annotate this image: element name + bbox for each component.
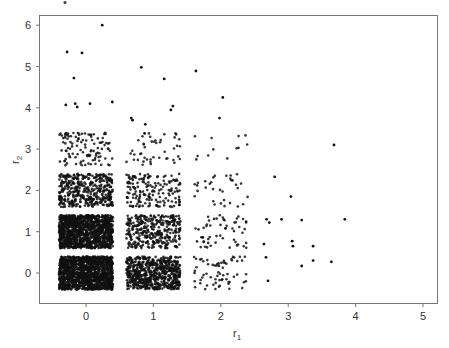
data-point <box>174 229 177 232</box>
data-point <box>153 186 156 189</box>
data-point <box>69 275 72 278</box>
data-point <box>140 266 143 269</box>
data-point <box>217 271 220 274</box>
data-point <box>65 276 68 279</box>
data-point <box>64 237 67 240</box>
x-tick-label: 5 <box>420 310 426 322</box>
data-point <box>109 260 112 263</box>
data-point <box>143 216 146 219</box>
data-point <box>83 181 86 184</box>
data-point <box>92 150 95 153</box>
data-point <box>223 219 226 222</box>
data-point <box>105 227 108 230</box>
data-point <box>88 232 91 235</box>
data-point <box>126 273 129 276</box>
data-point <box>173 222 176 225</box>
data-point <box>71 222 74 225</box>
data-point <box>168 278 171 281</box>
data-point <box>100 219 103 222</box>
data-point <box>106 189 109 192</box>
data-point <box>126 224 129 227</box>
data-point <box>104 186 107 189</box>
data-point <box>135 217 138 220</box>
data-point <box>95 154 98 157</box>
data-point <box>110 215 113 218</box>
data-point <box>146 198 149 201</box>
data-point <box>94 162 97 165</box>
data-point <box>66 183 69 186</box>
data-point <box>103 222 106 225</box>
data-point <box>100 164 103 167</box>
data-point <box>89 102 92 105</box>
data-point <box>154 182 157 185</box>
data-point <box>177 287 180 290</box>
data-point <box>231 227 234 230</box>
data-point <box>106 223 109 226</box>
data-point <box>93 238 96 241</box>
data-point <box>136 266 139 269</box>
data-point <box>164 245 167 248</box>
data-point <box>61 187 64 190</box>
data-point <box>102 225 105 228</box>
data-point <box>142 190 145 193</box>
data-point <box>224 227 227 230</box>
data-point <box>333 144 336 147</box>
data-point <box>172 105 175 108</box>
data-point <box>209 224 212 227</box>
data-point <box>107 276 110 279</box>
data-point <box>171 192 174 195</box>
data-point <box>137 287 140 290</box>
data-point <box>81 52 84 55</box>
data-point <box>110 270 113 273</box>
data-point <box>205 273 208 276</box>
data-point <box>154 256 157 259</box>
data-point <box>161 215 164 218</box>
data-point <box>108 279 111 282</box>
data-point <box>87 162 90 165</box>
data-point <box>162 283 165 286</box>
data-point <box>142 281 145 284</box>
data-point <box>168 287 171 290</box>
data-point <box>112 283 115 286</box>
data-point <box>77 137 80 140</box>
data-point <box>91 214 94 217</box>
data-point <box>109 247 112 250</box>
data-point <box>152 194 155 197</box>
data-point <box>82 139 85 142</box>
data-point <box>73 227 76 230</box>
data-point <box>221 96 224 99</box>
data-point <box>150 283 153 286</box>
data-point <box>245 247 248 250</box>
data-point <box>103 180 106 183</box>
data-point <box>67 220 70 223</box>
data-point <box>157 175 160 178</box>
data-point <box>69 235 72 238</box>
data-point <box>148 132 151 135</box>
data-point <box>222 216 225 219</box>
data-point <box>273 175 276 178</box>
data-point <box>149 220 152 223</box>
data-point <box>84 164 87 167</box>
data-point <box>166 257 169 260</box>
data-point <box>111 157 114 160</box>
data-point <box>171 272 174 275</box>
data-point <box>60 280 63 283</box>
data-point <box>98 236 101 239</box>
data-point <box>77 264 80 267</box>
y-tick-label: 0 <box>25 267 31 279</box>
data-point <box>127 232 130 235</box>
data-point <box>88 259 91 262</box>
data-point <box>146 224 149 227</box>
data-point <box>69 215 72 218</box>
data-point <box>149 158 152 161</box>
data-point <box>144 227 147 230</box>
data-point <box>157 278 160 281</box>
data-point <box>139 153 142 156</box>
data-point <box>128 259 131 262</box>
data-point <box>95 196 98 199</box>
data-point <box>208 236 211 239</box>
data-point <box>154 236 157 239</box>
data-point <box>176 274 179 277</box>
data-point <box>81 239 84 242</box>
data-point <box>100 241 103 244</box>
